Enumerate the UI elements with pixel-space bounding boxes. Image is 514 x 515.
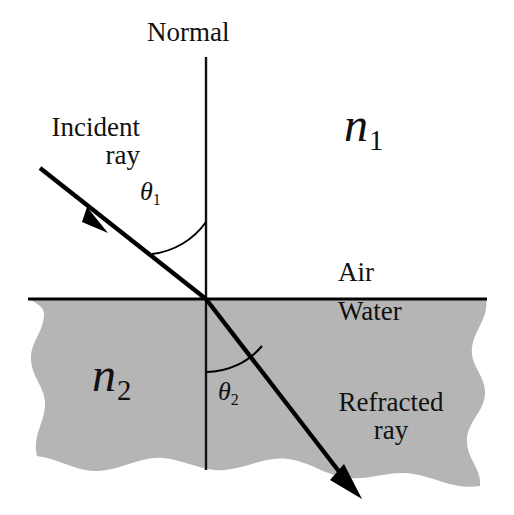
air-label: Air: [338, 258, 374, 286]
theta1-arc: [152, 222, 206, 254]
theta2-label: θ2: [218, 378, 239, 409]
n1-symbol: n: [344, 98, 368, 151]
incident-ray-label: Incidentray: [18, 113, 140, 169]
water-label: Water: [338, 297, 402, 325]
theta1-symbol: θ: [140, 177, 153, 206]
n2-subscript: 2: [117, 374, 131, 406]
refracted-ray-label-line1: Refracted: [339, 387, 444, 417]
refracted-ray-label-line2: ray: [374, 415, 408, 445]
refractive-index-n2-label: n2: [92, 350, 131, 406]
normal-label: Normal: [147, 18, 229, 46]
refracted-ray-label: Refractedray: [325, 388, 457, 444]
n2-symbol: n: [92, 348, 116, 401]
incident-ray-label-line1: Incident: [52, 112, 140, 142]
incident-ray-line: [40, 168, 206, 299]
refractive-index-n1-label: n1: [344, 100, 383, 156]
n1-subscript: 1: [369, 124, 383, 156]
incident-ray-label-line2: ray: [106, 140, 140, 170]
refraction-diagram: Normal Incidentray Air Water Refractedra…: [0, 0, 514, 515]
theta1-label: θ1: [140, 178, 161, 209]
theta2-subscript: 2: [231, 391, 239, 408]
theta2-symbol: θ: [218, 377, 231, 406]
theta1-subscript: 1: [153, 191, 161, 208]
